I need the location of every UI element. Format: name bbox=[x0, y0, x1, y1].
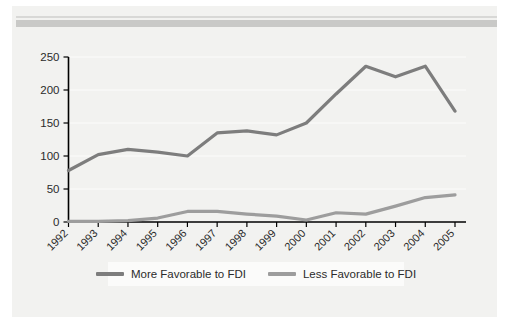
x-tick-label: 1999 bbox=[252, 227, 278, 253]
y-tick-label: 250 bbox=[40, 51, 59, 63]
legend-item[interactable]: More Favorable to FDI bbox=[96, 268, 246, 280]
y-tick-label: 0 bbox=[53, 216, 59, 228]
chart-legend: More Favorable to FDI Less Favorable to … bbox=[108, 262, 404, 286]
legend-swatch-icon bbox=[96, 272, 124, 275]
x-tick-label: 1997 bbox=[193, 227, 219, 253]
series-line bbox=[69, 66, 456, 170]
legend-item[interactable]: Less Favorable to FDI bbox=[268, 268, 416, 280]
x-tick-label: 1994 bbox=[104, 227, 130, 253]
y-tick-label: 150 bbox=[40, 117, 59, 129]
legend-item-label: More Favorable to FDI bbox=[131, 268, 246, 280]
x-axis-labels: 1992199319941995199619971998199920002001… bbox=[44, 227, 456, 253]
x-tick-label: 2004 bbox=[401, 227, 427, 253]
figure-container: 250200150100500 199219931994199519961997… bbox=[0, 0, 514, 323]
legend-swatch-icon bbox=[268, 272, 296, 275]
x-tick-label: 1992 bbox=[44, 227, 70, 253]
y-tick-label: 200 bbox=[40, 84, 59, 96]
x-tick-label: 1996 bbox=[163, 227, 189, 253]
x-tick-label: 2003 bbox=[371, 227, 397, 253]
x-tick-label: 2001 bbox=[312, 227, 338, 253]
legend-item-label: Less Favorable to FDI bbox=[303, 268, 416, 280]
y-axis-labels: 250200150100500 bbox=[40, 51, 59, 228]
x-tick-label: 1993 bbox=[74, 227, 100, 253]
x-tick-label: 1998 bbox=[223, 227, 249, 253]
x-tick-label: 2000 bbox=[282, 227, 308, 253]
x-tick-label: 2002 bbox=[341, 227, 367, 253]
axis-lines bbox=[69, 57, 467, 222]
series-line bbox=[69, 195, 456, 221]
x-tick-label: 1995 bbox=[133, 227, 159, 253]
x-tick-label: 2005 bbox=[431, 227, 457, 253]
gridlines bbox=[69, 57, 467, 222]
y-tick-label: 50 bbox=[47, 183, 60, 195]
y-tick-label: 100 bbox=[40, 150, 59, 162]
